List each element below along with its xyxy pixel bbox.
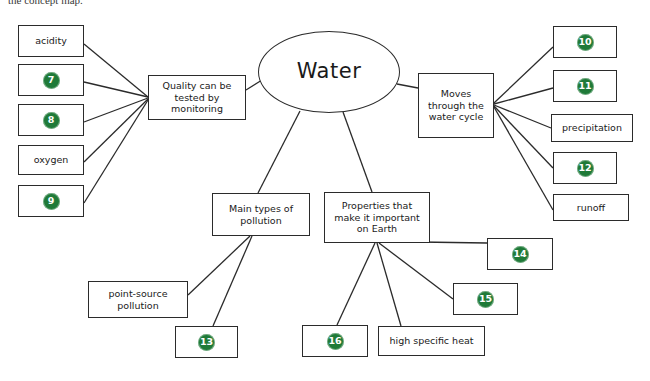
node-label-specificheat: high specific heat (389, 335, 473, 347)
concept-map-canvas: the concept map. acidity78oxygen9Quality… (0, 0, 650, 381)
node-label-oxygen: oxygen (34, 154, 69, 166)
edge-moves-to-blank10 (494, 47, 553, 103)
node-blank10[interactable]: 10 (553, 26, 617, 58)
node-label-properties: Properties that make it important on Ear… (334, 200, 419, 235)
node-blank15[interactable]: 15 (453, 283, 518, 315)
answer-marker-9: 9 (43, 193, 60, 210)
edge-water-to-pollution (258, 111, 300, 193)
node-blank7[interactable]: 7 (18, 64, 84, 96)
node-label-pointsource: point-source pollution (108, 288, 167, 311)
node-blank16[interactable]: 16 (302, 325, 368, 357)
edge-blank8-to-quality (84, 98, 148, 122)
node-oxygen[interactable]: oxygen (18, 145, 84, 175)
edge-pollution-to-pointsource (188, 236, 250, 295)
node-acidity[interactable]: acidity (18, 25, 84, 57)
node-label-acidity: acidity (35, 35, 67, 47)
node-label-pollution: Main types of pollution (229, 203, 293, 226)
node-water[interactable]: Water (258, 31, 400, 113)
answer-marker-12: 12 (577, 160, 594, 177)
answer-marker-13: 13 (198, 334, 215, 351)
node-label-precipitation: precipitation (562, 122, 622, 134)
answer-marker-8: 8 (43, 112, 60, 129)
edge-pollution-to-blank13 (213, 236, 252, 326)
node-label-moves: Moves through the water cycle (428, 88, 484, 123)
edge-properties-to-specificheat (377, 243, 401, 326)
node-precipitation[interactable]: precipitation (551, 114, 633, 142)
edge-blank9-to-quality (84, 100, 148, 203)
edge-moves-to-precipitation (494, 105, 551, 128)
node-properties[interactable]: Properties that make it important on Ear… (324, 192, 430, 243)
answer-marker-11: 11 (577, 78, 594, 95)
edge-moves-to-blank11 (494, 88, 553, 104)
answer-marker-7: 7 (43, 72, 60, 89)
node-specificheat[interactable]: high specific heat (378, 326, 485, 356)
node-pointsource[interactable]: point-source pollution (88, 281, 188, 318)
node-label-quality: Quality can be tested by monitoring (163, 80, 232, 115)
node-quality[interactable]: Quality can be tested by monitoring (148, 75, 246, 120)
node-pollution[interactable]: Main types of pollution (212, 193, 310, 236)
node-blank9[interactable]: 9 (18, 185, 84, 217)
node-blank13[interactable]: 13 (175, 326, 238, 358)
node-runoff[interactable]: runoff (553, 194, 629, 221)
node-label-runoff: runoff (577, 202, 605, 214)
node-blank11[interactable]: 11 (553, 70, 617, 102)
answer-marker-14: 14 (512, 246, 529, 263)
edge-water-to-properties (343, 112, 372, 192)
node-moves[interactable]: Moves through the water cycle (418, 73, 494, 138)
node-blank14[interactable]: 14 (487, 238, 553, 270)
edge-water-to-moves (397, 84, 418, 88)
answer-marker-10: 10 (577, 34, 594, 51)
answer-marker-15: 15 (477, 291, 494, 308)
node-label-water: Water (297, 59, 362, 85)
edge-properties-to-blank16 (337, 243, 375, 325)
node-blank8[interactable]: 8 (18, 104, 84, 136)
answer-marker-16: 16 (327, 333, 344, 350)
node-blank12[interactable]: 12 (553, 152, 617, 184)
